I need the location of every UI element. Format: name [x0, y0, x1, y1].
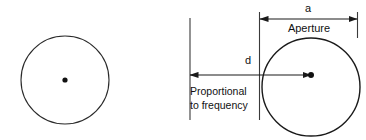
right-circle-group: a Aperture d Proportional to frequency	[190, 2, 360, 136]
distance-note-line2: to frequency	[190, 99, 249, 111]
diagram-canvas: a Aperture d Proportional to frequency	[0, 0, 366, 140]
distance-note-line1: Proportional	[190, 85, 247, 97]
aperture-dimension-label: a	[305, 2, 312, 14]
left-circle-group	[21, 36, 109, 124]
figure-root: a Aperture d Proportional to frequency	[0, 0, 366, 140]
aperture-circle-center-dot	[308, 72, 314, 78]
aperture-name-label: Aperture	[288, 22, 330, 34]
aperture-circle-outline	[262, 38, 360, 136]
distance-dimension-label: d	[245, 54, 251, 66]
left-circle-center-dot	[62, 77, 67, 82]
